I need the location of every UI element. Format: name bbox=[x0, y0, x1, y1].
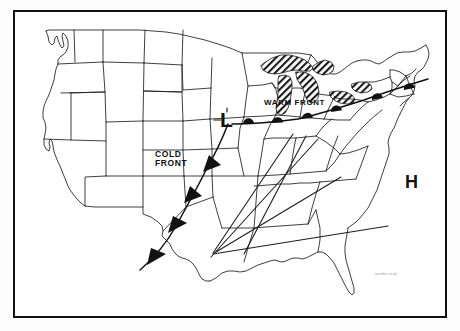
map-drawing bbox=[0, 0, 460, 331]
us-outline bbox=[43, 30, 429, 295]
high-pressure-label: H bbox=[405, 173, 419, 192]
trough-line-4 bbox=[213, 226, 388, 254]
trough-lines bbox=[211, 134, 388, 257]
weather-map-figure: L H COLD FRONT WARM FRONT weather map bbox=[0, 0, 460, 331]
trough-line-2 bbox=[244, 136, 306, 254]
cold-front bbox=[140, 124, 228, 270]
credit-text: weather map bbox=[375, 272, 397, 276]
state-lines-west bbox=[44, 30, 186, 231]
cold-front-label: COLD FRONT bbox=[155, 150, 187, 168]
warm-front-label: WARM FRONT bbox=[264, 99, 325, 107]
low-pressure-label: L bbox=[220, 109, 233, 131]
state-lines-midwest bbox=[182, 53, 276, 228]
trough-line-1 bbox=[213, 134, 293, 253]
